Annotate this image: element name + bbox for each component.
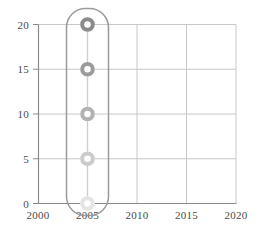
y-tick-label-10: 10 [18,108,30,120]
x-tick-label-2000: 2000 [27,209,50,221]
chart-canvas: 20 15 10 5 0 2000 2005 2010 2015 2020 [0,0,259,235]
data-point[interactable] [80,196,94,210]
x-tick-label-2010: 2010 [126,209,149,221]
y-axis-tick-labels: 20 15 10 5 0 [18,19,30,210]
y-tick-label-5: 5 [23,153,29,165]
y-tick-label-0: 0 [23,198,29,210]
y-tick-label-15: 15 [18,63,30,75]
x-tick-label-2020: 2020 [225,209,248,221]
data-point[interactable] [80,62,94,76]
x-axis-tick-labels: 2000 2005 2010 2015 2020 [27,209,248,221]
y-tick-label-20: 20 [18,19,30,31]
data-point[interactable] [80,17,94,31]
data-point[interactable] [80,152,94,166]
y-axis-ticks [33,25,39,204]
data-point[interactable] [80,107,94,121]
x-tick-label-2015: 2015 [175,209,198,221]
scatter-chart: 20 15 10 5 0 2000 2005 2010 2015 2020 [0,0,259,235]
gridlines [38,25,236,204]
